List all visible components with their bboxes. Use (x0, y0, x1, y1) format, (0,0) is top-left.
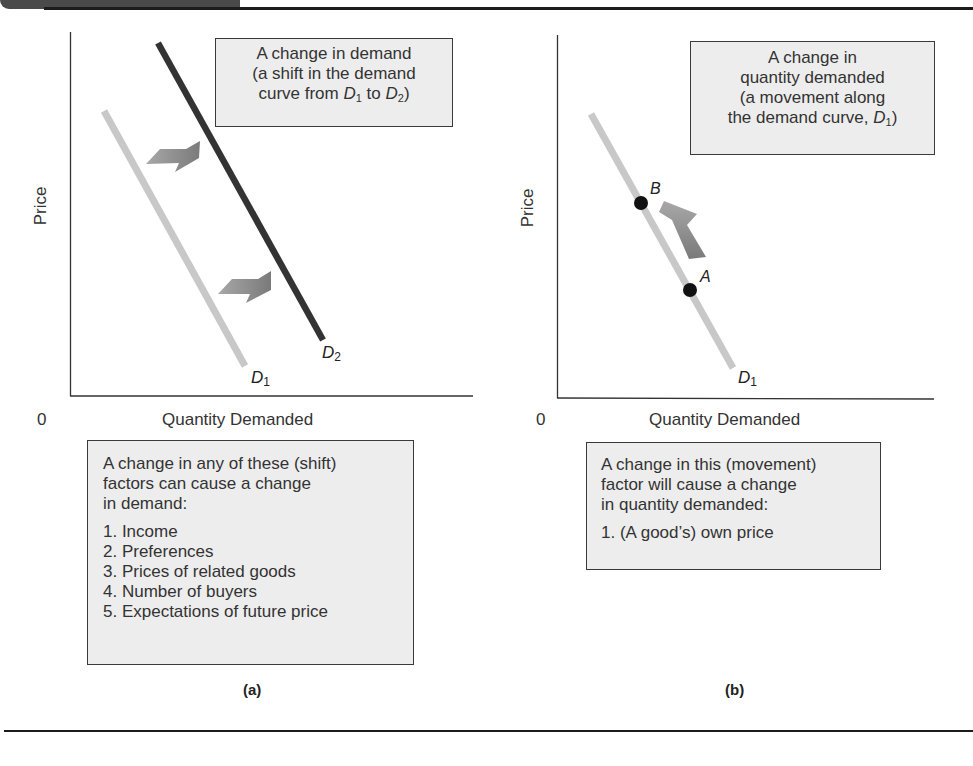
x-axis (557, 398, 934, 399)
curve-subscript: 1 (263, 375, 270, 389)
curve-name: D (322, 343, 334, 362)
point-b (634, 196, 648, 210)
box-intro-line: factors can cause a change (103, 474, 413, 494)
y-axis-label: Price (31, 187, 51, 226)
box-intro-line: in demand: (103, 494, 413, 514)
callout-change-in-quantity-demanded: A change in quantity demanded (a movemen… (690, 41, 935, 155)
box-intro-line: factor will cause a change (601, 475, 880, 495)
curve-label-d2: D2 (322, 343, 341, 364)
callout-line: A change in demand (216, 44, 452, 64)
box-intro-line: A change in any of these (shift) (103, 454, 413, 474)
x-axis-label: Quantity Demanded (162, 410, 313, 430)
curve-label-d1: D1 (738, 368, 757, 389)
movement-factors-list: 1. (A good’s) own price (601, 523, 880, 543)
shift-factors-list: 1. Income 2. Preferences 3. Prices of re… (103, 522, 413, 622)
curve-subscript: 2 (334, 350, 341, 364)
movement-factors-box: A change in this (movement) factor will … (586, 442, 881, 570)
curve-name: D (738, 368, 750, 387)
bottom-rule (4, 730, 973, 732)
origin-label: 0 (37, 410, 46, 430)
text: to (362, 84, 386, 103)
point-label-b: B (650, 180, 661, 198)
callout-line: (a movement along (691, 88, 934, 108)
text: curve from (258, 84, 343, 103)
curve-symbol: D (385, 84, 397, 103)
x-axis-label: Quantity Demanded (649, 410, 800, 430)
list-item: 1. Income (103, 522, 413, 542)
callout-line: A change in (691, 48, 934, 68)
box-intro-line: in quantity demanded: (601, 495, 880, 515)
callout-line: (a shift in the demand (216, 64, 452, 84)
point-a (683, 283, 697, 297)
y-axis-label: Price (518, 189, 538, 228)
panel-label-b: (b) (725, 681, 744, 698)
panel-label-a: (a) (243, 681, 261, 698)
callout-line: quantity demanded (691, 68, 934, 88)
box-intro-line: A change in this (movement) (601, 455, 880, 475)
shift-right-arrow-icon (146, 141, 200, 172)
list-item: 4. Number of buyers (103, 582, 413, 602)
curve-name: D (251, 368, 263, 387)
list-item: 5. Expectations of future price (103, 602, 413, 622)
curve-symbol: D (343, 84, 355, 103)
curve-symbol: D (873, 108, 885, 127)
point-label-a: A (700, 268, 711, 286)
text: the demand curve, (728, 108, 874, 127)
list-item: 2. Preferences (103, 542, 413, 562)
callout-line: curve from D1 to D2) (216, 84, 452, 108)
shift-factors-box: A change in any of these (shift) factors… (87, 440, 414, 665)
origin-label: 0 (536, 410, 545, 430)
curve-subscript: 1 (750, 375, 757, 389)
callout-line: the demand curve, D1) (691, 108, 934, 132)
callout-change-in-demand: A change in demand (a shift in the deman… (215, 38, 453, 127)
text: ) (892, 108, 898, 127)
shift-right-arrow-icon (218, 271, 271, 303)
list-item: 1. (A good’s) own price (601, 523, 880, 543)
list-item: 3. Prices of related goods (103, 562, 413, 582)
curve-label-d1: D1 (251, 368, 270, 389)
text: ) (404, 84, 410, 103)
